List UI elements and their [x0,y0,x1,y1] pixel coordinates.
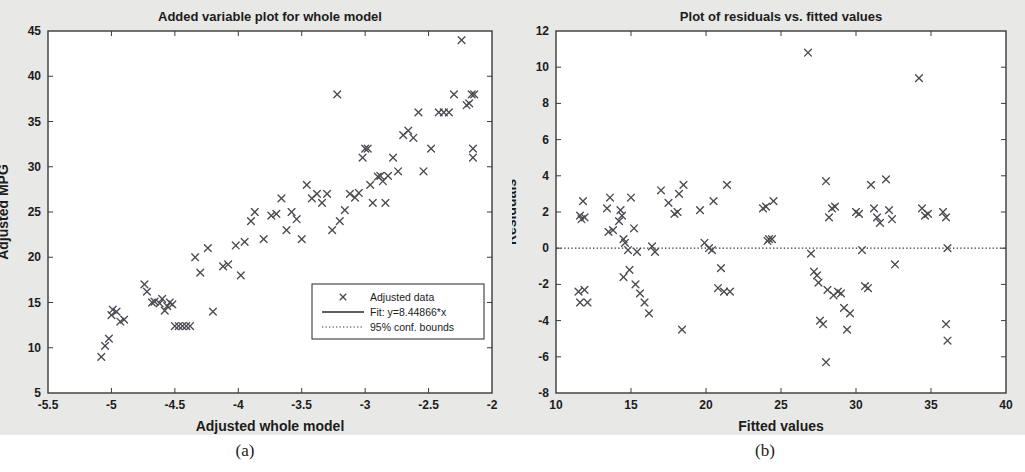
plot-legend: Adjusted dataFit: y=8.44866*x95% conf. b… [312,284,484,339]
x-tick-label: 10 [549,398,563,412]
y-tick-label: 15 [28,296,42,310]
x-tick-label: 35 [924,398,938,412]
x-axis-label: Fitted values [738,418,824,434]
added-variable-plot: Added variable plot for whole model-5.5-… [0,0,512,435]
plot-title: Plot of residuals vs. fitted values [680,9,882,24]
panel-b: Plot of residuals vs. fitted values10152… [512,0,1025,435]
caption-b: (b) [735,441,795,461]
y-tick-label: 4 [542,169,549,183]
y-axis-label: Residuals [512,179,519,245]
legend-entry-label: Fit: y=8.44866*x [370,306,447,318]
x-tick-label: -4 [233,398,244,412]
y-tick-label: 40 [28,69,42,83]
x-tick-label: 40 [999,398,1013,412]
x-tick-label: 30 [849,398,863,412]
x-tick-label: 20 [699,398,713,412]
plot-title: Added variable plot for whole model [158,9,382,24]
y-tick-label: 6 [542,133,549,147]
y-tick-label: 10 [536,60,550,74]
legend-entry-label: 95% conf. bounds [370,321,454,333]
y-tick-label: 25 [28,205,42,219]
x-tick-label: -2.5 [418,398,439,412]
y-tick-label: -6 [538,350,549,364]
x-tick-label: -3 [360,398,371,412]
y-tick-label: 0 [542,241,549,255]
y-tick-label: -4 [538,314,549,328]
y-tick-label: 45 [28,24,42,38]
x-tick-label: -4.5 [165,398,186,412]
panel-a: Added variable plot for whole model-5.5-… [0,0,512,435]
x-tick-label: -5 [106,398,117,412]
figure-container: Added variable plot for whole model-5.5-… [0,0,1025,472]
y-tick-label: 12 [536,24,550,38]
y-tick-label: 35 [28,115,42,129]
caption-row: (a) (b) [0,435,1025,472]
y-tick-label: -8 [538,386,549,400]
plot-area-background [556,31,1006,393]
x-tick-label: 15 [624,398,638,412]
x-tick-label: -2 [487,398,498,412]
y-tick-label: 20 [28,250,42,264]
y-tick-label: 2 [542,205,549,219]
caption-a: (a) [215,441,275,461]
x-tick-label: -3.5 [291,398,312,412]
x-tick-label: 25 [774,398,788,412]
legend-entry-label: Adjusted data [370,291,434,303]
x-axis-label: Adjusted whole model [196,418,345,434]
y-axis-label: Adjusted MPG [0,164,11,260]
y-tick-label: 8 [542,96,549,110]
residuals-plot: Plot of residuals vs. fitted values10152… [512,0,1025,435]
y-tick-label: 30 [28,160,42,174]
x-tick-label: -5.5 [38,398,59,412]
y-tick-label: 10 [28,341,42,355]
y-tick-label: 5 [34,386,41,400]
y-tick-label: -2 [538,277,549,291]
